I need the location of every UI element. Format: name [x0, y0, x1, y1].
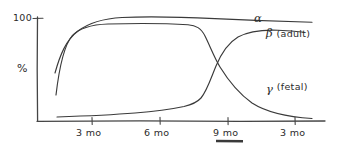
x-tick-label-3mo-postnatal: 3 mo — [280, 128, 305, 138]
alpha-chain-label: α — [254, 13, 262, 25]
y-axis-max-label: 100 — [13, 13, 32, 23]
alpha-symbol: α — [254, 11, 262, 25]
gamma-qualifier-text: (fetal) — [277, 81, 308, 92]
beta-qualifier-text: (adult) — [277, 28, 311, 39]
x-tick-label-3mo-prenatal: 3 mo — [76, 128, 101, 138]
beta-adult-chain-label: β (adult) — [266, 28, 310, 40]
x-tick-label-9mo-birth: 9 mo — [213, 128, 238, 138]
y-axis-title: % — [17, 63, 28, 74]
x-tick-label-6mo-prenatal: 6 mo — [144, 128, 169, 138]
hemoglobin-chain-synthesis-chart: 100 % 3 mo 6 mo 9 mo 3 mo α β (adult) γ … — [0, 0, 344, 151]
x-axis-line — [37, 121, 325, 122]
gamma-fetal-chain-label: γ (fetal) — [266, 84, 308, 96]
gamma-symbol: γ — [266, 82, 273, 96]
beta-symbol: β — [266, 26, 273, 40]
beta-adult-chain-curve — [57, 30, 304, 117]
